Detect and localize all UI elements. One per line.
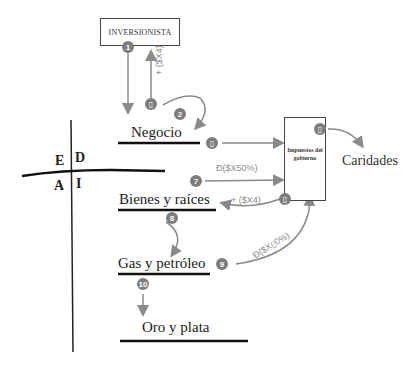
- asset-real-estate: Bienes y raíces: [119, 191, 210, 208]
- step-badge-7: 7: [190, 175, 202, 187]
- asset-oil-gas: Gas y petróleo: [118, 255, 205, 272]
- quadrant-a: A: [54, 178, 64, 194]
- step-badge-b6: ▯: [279, 193, 291, 205]
- real-estate-return-label: + ($X4): [231, 195, 261, 205]
- investor-label: INVERSIONISTA: [109, 28, 172, 37]
- step-badge-b3: ▯: [145, 98, 157, 110]
- investor-return-label: + ($X4): [154, 45, 164, 75]
- step-badge-10: 10: [137, 278, 149, 290]
- step-badge-9: 9: [216, 258, 228, 270]
- quadrant-i: I: [76, 176, 81, 192]
- step-badge-2: 2: [174, 108, 186, 120]
- quadrant-e: E: [55, 153, 64, 169]
- step-badge-b4: ▯: [206, 137, 218, 149]
- investor-box: INVERSIONISTA: [100, 18, 180, 46]
- tax-box-label: Impuestos del gobierno: [284, 146, 326, 162]
- real-estate-tax-label: Đ($X50%): [216, 163, 258, 173]
- asset-gold-silver: Oro y plata: [142, 319, 209, 336]
- step-badge-8: 8: [166, 212, 178, 224]
- step-badge-1: 1: [122, 41, 134, 53]
- asset-business: Negocio: [131, 124, 182, 141]
- step-badge-b5: ▯: [314, 123, 326, 135]
- quadrant-d: D: [75, 150, 85, 166]
- charity-label: Caridades: [342, 153, 398, 169]
